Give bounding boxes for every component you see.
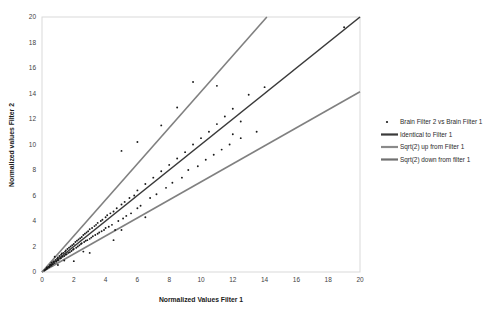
scatter-point bbox=[60, 257, 62, 259]
scatter-point bbox=[90, 237, 92, 239]
reference-line bbox=[42, 17, 360, 272]
scatter-point bbox=[82, 251, 84, 253]
scatter-point bbox=[232, 133, 234, 135]
scatter-point bbox=[221, 149, 223, 151]
x-tick-label: 14 bbox=[261, 276, 269, 283]
chart-legend: Brain Filter 2 vs Brain Filter 1Identica… bbox=[381, 118, 483, 164]
x-tick-label: 16 bbox=[293, 276, 301, 283]
x-tick-label: 10 bbox=[197, 276, 205, 283]
reference-line bbox=[42, 17, 267, 272]
scatter-point bbox=[114, 229, 116, 231]
scatter-point bbox=[116, 207, 118, 209]
scatter-point bbox=[59, 255, 61, 257]
scatter-point bbox=[200, 137, 202, 139]
x-tick-label: 0 bbox=[40, 276, 44, 283]
scatter-point bbox=[248, 94, 250, 96]
scatter-point bbox=[57, 264, 59, 266]
scatter-point bbox=[176, 158, 178, 160]
scatter-point bbox=[78, 239, 80, 241]
scatter-point bbox=[125, 215, 127, 217]
scatter-point bbox=[77, 246, 79, 248]
y-tick-label: 16 bbox=[29, 64, 37, 71]
legend-item-label: Sqrt(2) down from filter 1 bbox=[400, 156, 471, 164]
scatter-point bbox=[54, 256, 56, 258]
y-tick-label: 2 bbox=[32, 243, 36, 250]
scatter-point bbox=[124, 201, 126, 203]
scatter-point bbox=[86, 239, 88, 241]
x-tick-label: 4 bbox=[104, 276, 108, 283]
reference-lines bbox=[42, 17, 360, 272]
scatter-point bbox=[63, 252, 65, 254]
scatter-point bbox=[82, 234, 84, 236]
scatter-point bbox=[54, 262, 56, 264]
scatter-point bbox=[130, 212, 132, 214]
scatter-point bbox=[136, 189, 138, 191]
scatter-point bbox=[76, 240, 78, 242]
scatter-point bbox=[71, 244, 73, 246]
scatter-point bbox=[81, 236, 83, 238]
scatter-point bbox=[205, 159, 207, 161]
scatter-point bbox=[106, 214, 108, 216]
scatter-point bbox=[63, 255, 65, 257]
scatter-point bbox=[94, 234, 96, 236]
scatter-point bbox=[91, 227, 93, 229]
scatter-point bbox=[89, 252, 91, 254]
scatter-point bbox=[101, 230, 103, 232]
scatter-point bbox=[105, 227, 107, 229]
scatter-point bbox=[109, 212, 111, 214]
y-tick-label: 10 bbox=[29, 141, 37, 148]
scatter-point bbox=[84, 233, 86, 235]
scatter-point bbox=[160, 170, 162, 172]
scatter-point bbox=[121, 203, 123, 205]
scatter-point bbox=[168, 164, 170, 166]
scatter-point bbox=[66, 248, 68, 250]
y-tick-label: 8 bbox=[32, 166, 36, 173]
scatter-point bbox=[133, 195, 135, 197]
scatter-point bbox=[79, 237, 81, 239]
scatter-point bbox=[111, 224, 113, 226]
scatter-point bbox=[66, 253, 68, 255]
scatter-point bbox=[95, 224, 97, 226]
scatter-point bbox=[184, 151, 186, 153]
scatter-point bbox=[216, 123, 218, 125]
scatter-point bbox=[73, 248, 75, 250]
legend-item-label: Sqrt(2) up from Filter 1 bbox=[400, 143, 465, 151]
scatter-point bbox=[92, 235, 94, 237]
scatter-point bbox=[121, 150, 123, 152]
scatter-point bbox=[117, 220, 119, 222]
scatter-point bbox=[101, 219, 103, 221]
scatter-point bbox=[97, 233, 99, 235]
scatter-point bbox=[89, 228, 91, 230]
scatter-point bbox=[181, 177, 183, 179]
scatter-point bbox=[55, 261, 57, 263]
scatter-point bbox=[73, 243, 75, 245]
scatter-point bbox=[73, 260, 75, 262]
scatter-point bbox=[83, 241, 85, 243]
scatter-point bbox=[197, 165, 199, 167]
scatter-point bbox=[192, 144, 194, 146]
y-tick-label: 20 bbox=[29, 13, 37, 20]
scatter-point bbox=[113, 239, 115, 241]
scatter-point bbox=[52, 263, 54, 265]
scatter-point bbox=[68, 247, 70, 249]
scatter-point bbox=[187, 169, 189, 171]
y-tick-label: 4 bbox=[32, 217, 36, 224]
scatter-point bbox=[208, 131, 210, 133]
scatter-point bbox=[86, 232, 88, 234]
scatter-point bbox=[58, 259, 60, 261]
x-tick-label: 12 bbox=[229, 276, 237, 283]
scatter-point bbox=[121, 229, 123, 231]
legend-item-label: Brain Filter 2 vs Brain Filter 1 bbox=[400, 118, 483, 125]
scatter-point bbox=[98, 232, 100, 234]
y-tick-label: 14 bbox=[29, 90, 37, 97]
scatter-point bbox=[343, 26, 345, 28]
scatter-point bbox=[232, 108, 234, 110]
scatter-point bbox=[256, 131, 258, 133]
scatter-point bbox=[136, 207, 138, 209]
scatter-point bbox=[216, 85, 218, 87]
scatter-point bbox=[160, 124, 162, 126]
y-axis-title: Normalized values Filter 2 bbox=[8, 103, 15, 187]
scatter-point bbox=[113, 210, 115, 212]
y-tick-label: 18 bbox=[29, 39, 37, 46]
scatter-point bbox=[87, 230, 89, 232]
